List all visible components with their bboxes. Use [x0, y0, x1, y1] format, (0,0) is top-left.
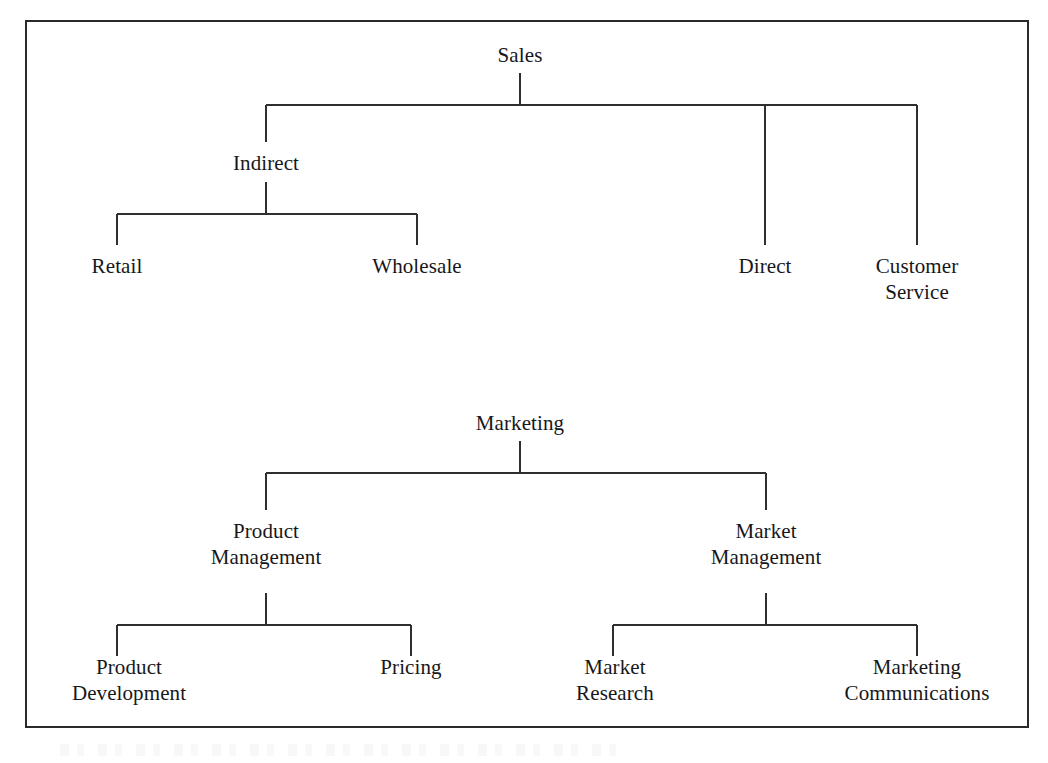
node-product-management[interactable]: Product Management: [211, 518, 322, 570]
node-indirect[interactable]: Indirect: [233, 150, 299, 176]
node-marketing-communications[interactable]: Marketing Communications: [845, 654, 990, 706]
node-sales[interactable]: Sales: [498, 42, 543, 68]
node-retail[interactable]: Retail: [92, 253, 143, 279]
node-direct[interactable]: Direct: [738, 253, 791, 279]
node-customer-service[interactable]: Customer Service: [876, 253, 958, 305]
node-market-management[interactable]: Market Management: [711, 518, 822, 570]
node-product-development[interactable]: Product Development: [72, 654, 186, 706]
node-marketing[interactable]: Marketing: [476, 410, 564, 436]
node-pricing[interactable]: Pricing: [380, 654, 441, 680]
scan-artifact-strip: [60, 744, 620, 756]
figure-border: [25, 20, 1029, 728]
node-wholesale[interactable]: Wholesale: [372, 253, 462, 279]
figure-page: Sales Indirect Retail Wholesale Direct C…: [0, 0, 1048, 763]
node-market-research[interactable]: Market Research: [576, 654, 654, 706]
